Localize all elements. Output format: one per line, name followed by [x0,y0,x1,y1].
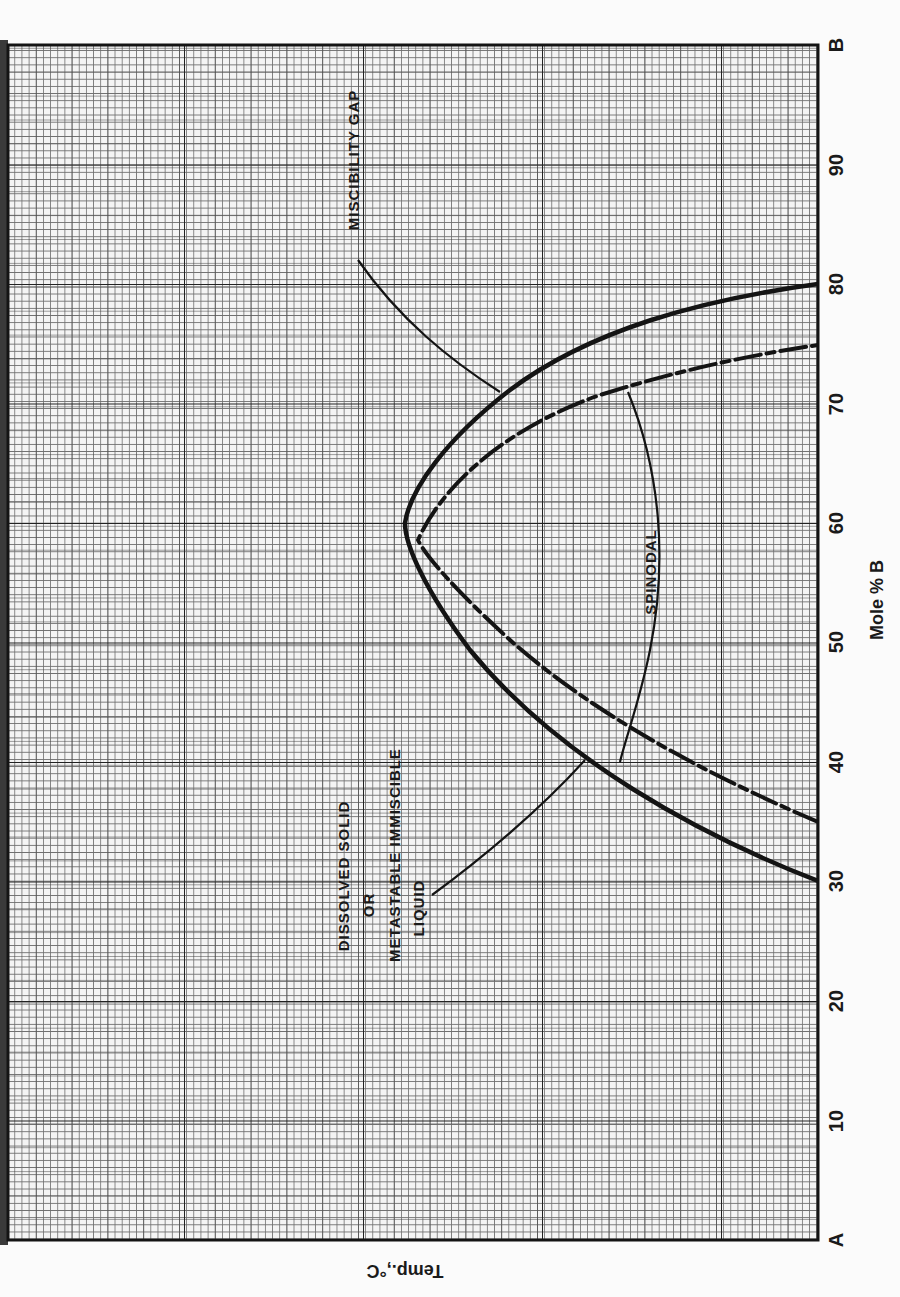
tick-B: B [825,38,847,52]
tick-30: 30 [825,870,847,892]
composition-axis: A 10 20 30 40 50 60 70 80 90 B Mole % B [825,38,886,1247]
composition-axis-title: Mole % B [867,560,887,640]
temperature-axis-title: Temp.,°C [367,1261,444,1281]
phase-diagram-figure: MISCIBILITY GAP SPINODAL DISSOLVED SOLID… [0,0,900,1297]
tick-40: 40 [825,751,847,773]
phase-diagram-svg: MISCIBILITY GAP SPINODAL DISSOLVED SOLID… [0,0,900,1297]
tick-20: 20 [825,990,847,1012]
tick-80: 80 [825,273,847,295]
tick-70: 70 [825,393,847,415]
tick-60: 60 [825,512,847,534]
miscibility-gap-label: MISCIBILITY GAP [345,90,362,231]
liquid-label: LIQUID [410,880,427,937]
or-label: OR [360,893,377,918]
tick-10: 10 [825,1110,847,1132]
dissolved-solid-label: DISSOLVED SOLID [335,801,352,952]
tick-A: A [825,1233,847,1247]
metastable-label: METASTABLE IMMISCIBLE [386,748,403,962]
spinodal-label: SPINODAL [642,529,659,615]
tick-50: 50 [825,631,847,653]
graph-paper-grid [8,45,818,1240]
tick-90: 90 [825,154,847,176]
